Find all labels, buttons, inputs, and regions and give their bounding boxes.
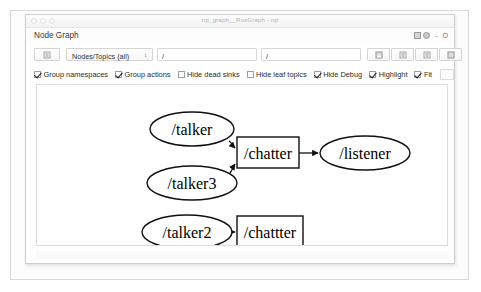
- checkbox-icon[interactable]: [115, 71, 122, 78]
- dock-widget-header: Node Graph - O: [26, 28, 454, 45]
- include-filter-value: /: [162, 52, 164, 61]
- include-filter-input[interactable]: /: [157, 48, 257, 61]
- exclude-filter-input[interactable]: /: [261, 48, 361, 61]
- node-label: /listener: [339, 145, 391, 162]
- checkbox-label: Fit: [424, 70, 432, 79]
- node-label: /talker3: [168, 175, 217, 192]
- floppy-disk-icon: [375, 51, 382, 58]
- graph-node-talker[interactable]: /talker: [150, 112, 234, 146]
- graph-canvas[interactable]: /talker /talker3 /chatter /listener: [36, 84, 448, 246]
- ros-node-graph: /talker /talker3 /chatter /listener: [37, 85, 447, 245]
- window-title: rqt_graph__RosGraph - rqt: [26, 16, 454, 23]
- status-strip: [36, 251, 448, 259]
- checkbox-hide-leaf-topics[interactable]: Hide leaf topics: [247, 70, 307, 79]
- graph-options-row: Group namespaces Group actions Hide dead…: [26, 66, 454, 83]
- dock-widget-buttons: - O: [414, 32, 448, 39]
- checkbox-label: Highlight: [379, 70, 408, 79]
- refresh-button[interactable]: [34, 48, 60, 61]
- checkbox-fit[interactable]: Fit: [414, 70, 432, 79]
- node-label: /talker: [172, 121, 214, 138]
- dock-minimize-button[interactable]: -: [435, 32, 437, 39]
- graph-type-select[interactable]: Nodes/Topics (all) ↕: [66, 48, 153, 61]
- refresh-icon: [44, 51, 51, 58]
- checkbox-label: Group namespaces: [44, 70, 109, 79]
- save-image-button[interactable]: [391, 48, 414, 61]
- undock-icon[interactable]: [414, 32, 421, 39]
- save-dot-button[interactable]: [367, 48, 390, 61]
- checkbox-hide-debug[interactable]: Hide Debug: [314, 70, 363, 79]
- rqt-application-window: rqt_graph__RosGraph - rqt Node Graph - O…: [25, 14, 455, 264]
- checkbox-label: Group actions: [125, 70, 171, 79]
- checkbox-label: Hide leaf topics: [256, 70, 307, 79]
- chevron-updown-icon: ↕: [144, 51, 147, 59]
- fit-value-input[interactable]: [440, 69, 454, 80]
- checkbox-icon[interactable]: [414, 71, 421, 78]
- screenshot-root: rqt_graph__RosGraph - rqt Node Graph - O…: [0, 0, 481, 292]
- checkbox-label: Hide dead sinks: [187, 70, 240, 79]
- graph-node-talker2[interactable]: /talker2: [142, 215, 232, 245]
- load-button[interactable]: [439, 48, 462, 61]
- exclude-filter-value: /: [266, 52, 268, 61]
- page-title: Node Graph: [34, 31, 79, 40]
- checkbox-icon[interactable]: [178, 71, 185, 78]
- graph-nodes: /talker /talker3 /chatter /listener: [142, 112, 410, 245]
- document-icon: [399, 51, 406, 58]
- help-icon[interactable]: [423, 32, 430, 39]
- graph-node-chattter[interactable]: /chattter: [237, 216, 303, 245]
- graph-type-value: Nodes/Topics (all): [72, 52, 129, 61]
- node-label: /chattter: [244, 224, 297, 241]
- edge-talker-chatter: [229, 141, 235, 148]
- edge-talker3-chatter: [230, 164, 235, 173]
- graph-node-talker3[interactable]: /talker3: [147, 166, 237, 200]
- checkbox-group-namespaces[interactable]: Group namespaces: [34, 70, 108, 79]
- checkbox-group-actions[interactable]: Group actions: [115, 70, 171, 79]
- dock-close-button[interactable]: O: [443, 32, 448, 39]
- graph-node-listener[interactable]: /listener: [320, 136, 410, 170]
- checkbox-icon[interactable]: [369, 71, 376, 78]
- box-icon: [447, 51, 454, 58]
- checkbox-label: Hide Debug: [323, 70, 362, 79]
- node-label: /chatter: [244, 145, 293, 162]
- checkbox-icon[interactable]: [247, 71, 254, 78]
- node-label: /talker2: [163, 224, 212, 241]
- checkbox-highlight[interactable]: Highlight: [369, 70, 407, 79]
- save-svg-button[interactable]: [415, 48, 438, 61]
- checkbox-icon[interactable]: [314, 71, 321, 78]
- checkbox-icon[interactable]: [34, 71, 41, 78]
- graph-toolbar: Nodes/Topics (all) ↕ / /: [26, 45, 454, 65]
- document-icon: [423, 51, 430, 58]
- checkbox-hide-dead-sinks[interactable]: Hide dead sinks: [178, 70, 240, 79]
- graph-node-chatter[interactable]: /chatter: [237, 137, 299, 168]
- window-titlebar[interactable]: rqt_graph__RosGraph - rqt: [26, 15, 454, 28]
